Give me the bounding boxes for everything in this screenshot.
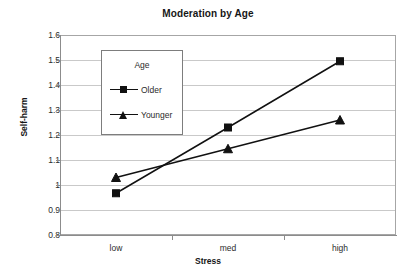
x-axis-title: Stress (0, 256, 416, 266)
y-axis-title: Self-harm (19, 77, 29, 157)
gridline (61, 160, 395, 161)
y-tick-mark (56, 60, 61, 61)
y-tick-mark (56, 135, 61, 136)
legend-title: Age (102, 60, 182, 70)
chart-legend: Age Older Younger (101, 50, 183, 135)
gridline (61, 210, 395, 211)
x-tick-label-high: high (332, 243, 348, 253)
gridline (61, 135, 395, 136)
legend-label-older: Older (141, 85, 162, 95)
y-tick-label: 1.6 (14, 30, 60, 40)
y-tick-mark (56, 235, 61, 236)
y-tick-label: 0.8 (14, 230, 60, 240)
x-tick-label-low: low (110, 243, 123, 253)
chart-figure: Moderation by Age 1.6 1.5 1.4 1.3 1.2 1.… (0, 0, 416, 273)
legend-item-younger[interactable]: Younger (102, 109, 182, 121)
legend-marker-square-icon (110, 84, 138, 96)
x-tick-label-med: med (220, 243, 237, 253)
x-tick-mark (172, 235, 173, 240)
y-tick-label: 0.9 (14, 205, 60, 215)
y-tick-mark (56, 185, 61, 186)
y-tick-mark (56, 210, 61, 211)
legend-label-younger: Younger (141, 110, 172, 120)
legend-item-older[interactable]: Older (102, 84, 182, 96)
y-tick-mark (56, 85, 61, 86)
y-tick-mark (56, 160, 61, 161)
y-tick-label: 1 (14, 180, 60, 190)
x-tick-mark (284, 235, 285, 240)
y-tick-label: 1.5 (14, 55, 60, 65)
chart-title: Moderation by Age (0, 8, 416, 19)
x-axis-line (60, 235, 397, 236)
y-tick-mark (56, 35, 61, 36)
y-tick-mark (56, 110, 61, 111)
legend-marker-triangle-icon (110, 109, 138, 121)
gridline (61, 185, 395, 186)
